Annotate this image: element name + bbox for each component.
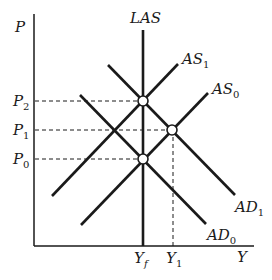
p0-label: P0 — [12, 150, 29, 170]
equilibrium-point-p0 — [138, 154, 148, 164]
x-axis-label: Y — [237, 248, 249, 266]
as0-label: AS0 — [210, 80, 239, 100]
ad0-label: AD0 — [205, 226, 236, 246]
ad-as-diagram: P Y LAS AS1 AS0 AD1 AD0 P2 P1 P0 Yf Y1 — [0, 0, 272, 280]
y-axis-label: P — [14, 18, 26, 36]
p1-label: P1 — [12, 121, 29, 141]
p2-label: P2 — [12, 92, 29, 112]
equilibrium-point-p2 — [138, 96, 148, 106]
las-label: LAS — [129, 9, 161, 27]
equilibrium-point-p1 — [167, 125, 177, 135]
ad1-label: AD1 — [233, 198, 264, 218]
as1-label: AS1 — [180, 50, 209, 70]
yf-label: Yf — [134, 249, 150, 269]
y1-label: Y1 — [166, 249, 182, 269]
